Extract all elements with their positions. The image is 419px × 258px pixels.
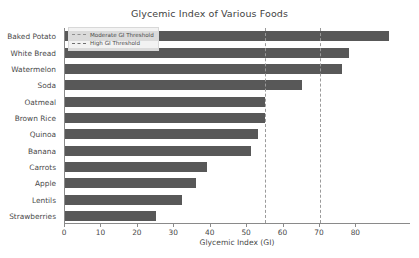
bar <box>65 129 258 139</box>
x-axis-tick-label: 0 <box>62 228 67 237</box>
bar-fill <box>65 97 265 107</box>
x-axis-tick-label: 10 <box>96 228 105 237</box>
legend-label: High GI Threshold <box>90 40 140 46</box>
bar <box>65 64 342 74</box>
y-axis-tick-label: Strawberries <box>9 211 56 220</box>
x-axis-tick-label: 40 <box>205 228 214 237</box>
y-axis-tick-label: Quinoa <box>30 130 56 139</box>
bar <box>65 178 196 188</box>
bar-fill <box>65 64 342 74</box>
bar <box>65 195 182 205</box>
x-axis-tick-mark <box>64 224 65 227</box>
y-axis-tick-label: Apple <box>35 179 56 188</box>
bar-fill <box>65 129 258 139</box>
x-axis-tick-mark <box>246 224 247 227</box>
moderate-gi-threshold-line <box>265 28 266 223</box>
chart-legend: Moderate GI ThresholdHigh GI Threshold <box>68 27 159 51</box>
legend-line-swatch <box>72 34 86 35</box>
bar-fill <box>65 146 251 156</box>
legend-entry: Moderate GI Threshold <box>72 31 154 39</box>
bar-fill <box>65 195 182 205</box>
y-axis-tick-label: Brown Rice <box>15 113 56 122</box>
bar-fill <box>65 178 196 188</box>
legend-entry: High GI Threshold <box>72 39 154 47</box>
x-axis-tick-mark <box>137 224 138 227</box>
x-axis-tick-mark <box>283 224 284 227</box>
y-axis-tick-label: Soda <box>38 81 56 90</box>
plot-area <box>64 28 410 224</box>
y-axis-tick-label: White Bread <box>10 48 56 57</box>
bar-fill <box>65 113 265 123</box>
bar <box>65 162 207 172</box>
legend-label: Moderate GI Threshold <box>90 32 154 38</box>
x-axis-label: Glycemic Index (GI) <box>64 238 410 247</box>
x-axis-tick-label: 30 <box>169 228 178 237</box>
y-axis-tick-label: Lentils <box>32 195 56 204</box>
bar <box>65 146 251 156</box>
x-axis-tick-mark <box>319 224 320 227</box>
high-gi-threshold-line <box>320 28 321 223</box>
y-axis-tick-label: Baked Potato <box>7 32 56 41</box>
x-axis-tick-mark <box>210 224 211 227</box>
x-axis-tick-mark <box>173 224 174 227</box>
y-axis-tick-label: Watermelon <box>11 64 56 73</box>
x-axis-tick-mark <box>355 224 356 227</box>
bar-fill <box>65 162 207 172</box>
bar <box>65 113 265 123</box>
y-axis-tick-label: Banana <box>28 146 56 155</box>
x-axis-tick-mark <box>100 224 101 227</box>
chart-title: Glycemic Index of Various Foods <box>0 8 419 19</box>
y-axis-tick-labels: Baked PotatoWhite BreadWatermelonSodaOat… <box>0 28 60 224</box>
bar <box>65 97 265 107</box>
bar-fill <box>65 211 156 221</box>
bar <box>65 211 156 221</box>
x-axis-tick-label: 50 <box>241 228 250 237</box>
y-axis-tick-label: Oatmeal <box>24 97 56 106</box>
chart-figure: Glycemic Index of Various Foods Baked Po… <box>0 0 419 258</box>
x-axis-tick-label: 60 <box>278 228 287 237</box>
legend-line-swatch <box>72 43 86 44</box>
x-axis-tick-label: 80 <box>351 228 360 237</box>
x-axis-tick-label: 20 <box>132 228 141 237</box>
y-axis-tick-label: Carrots <box>29 162 56 171</box>
x-axis-tick-label: 70 <box>314 228 323 237</box>
